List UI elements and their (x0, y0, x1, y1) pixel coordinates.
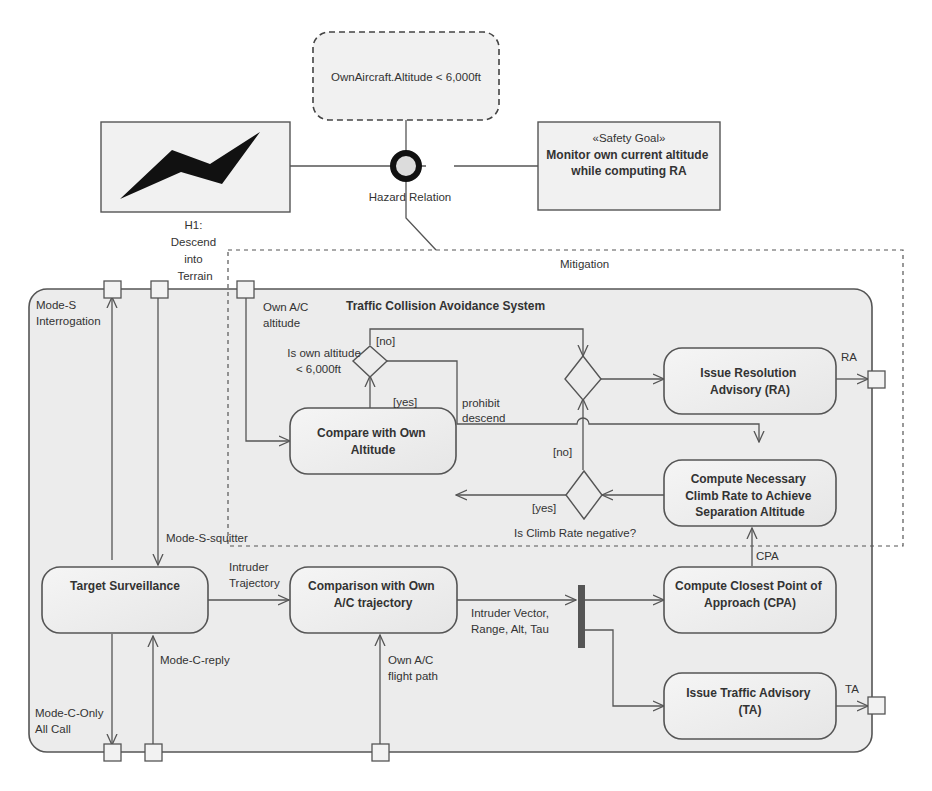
hazard-relation-label: Hazard Relation (369, 191, 451, 203)
action-target-surveillance[interactable] (42, 567, 208, 633)
label-ta: TA (845, 683, 859, 695)
pin-ra[interactable] (868, 371, 885, 388)
pin-own-altitude[interactable] (237, 281, 254, 298)
fork-bar (578, 585, 585, 648)
safety-goal-stereotype: «Safety Goal» (593, 132, 666, 144)
label-yes-altitude: [yes] (393, 396, 417, 408)
label-mode-c-reply: Mode-C-reply (160, 654, 230, 666)
hazard-label: H1: Descend into Terrain (171, 219, 220, 282)
mitigation-label: Mitigation (560, 258, 609, 270)
label-yes-climb: [yes] (532, 502, 556, 514)
label-no-climb: [no] (553, 446, 572, 458)
label-no-altitude: [no] (376, 335, 395, 347)
tcas-diagram: OwnAircraft.Altitude < 6,000ft Hazard Re… (0, 0, 932, 791)
pin-own-flight-path[interactable] (372, 744, 389, 761)
action-issue-ra[interactable] (664, 348, 836, 414)
action-target-surveillance-label: Target Surveillance (70, 579, 180, 593)
action-compute-climb-label: Compute Necessary Climb Rate to Achieve … (685, 472, 815, 519)
pin-ta[interactable] (868, 697, 885, 714)
pin-mode-c-reply[interactable] (145, 744, 162, 761)
label-cpa: CPA (756, 550, 779, 562)
label-climb-question: Is Climb Rate negative? (514, 527, 636, 539)
condition-text: OwnAircraft.Altitude < 6,000ft (331, 71, 482, 83)
label-mode-s-squitter: Mode-S-squitter (166, 532, 248, 544)
action-compare-altitude[interactable] (290, 408, 456, 474)
pin-mode-s-squitter[interactable] (151, 281, 168, 298)
label-ra: RA (841, 351, 857, 363)
hazard-relation-node[interactable] (393, 153, 419, 179)
pin-mode-c-only[interactable] (104, 744, 121, 761)
frame-title: Traffic Collision Avoidance System (346, 299, 545, 313)
pin-mode-s-interrogation[interactable] (104, 281, 121, 298)
